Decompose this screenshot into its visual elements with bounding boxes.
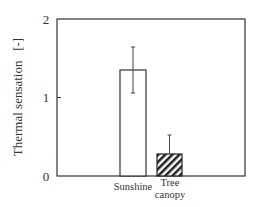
bar-sunshine bbox=[120, 47, 146, 176]
y-tick-label-1: 1 bbox=[43, 90, 50, 105]
bar-chart: 0 1 2 Thermal sensation [-] Sunshine Tre… bbox=[0, 0, 260, 207]
bar-tree-canopy bbox=[157, 135, 182, 176]
category-label-tree-canopy-line1: Tree bbox=[161, 177, 180, 188]
category-label-sunshine: Sunshine bbox=[114, 181, 153, 192]
category-label-tree-canopy-line2: canopy bbox=[155, 189, 186, 200]
plot-frame bbox=[57, 19, 245, 176]
y-tick-label-0: 0 bbox=[43, 169, 50, 184]
y-axis-label: Thermal sensation [-] bbox=[10, 38, 25, 156]
y-tick-label-2: 2 bbox=[43, 12, 50, 27]
